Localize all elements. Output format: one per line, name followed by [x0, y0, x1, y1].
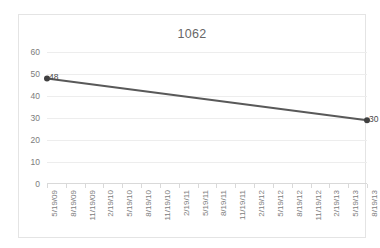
plot-area: 0102030405060 5/19/098/19/0911/19/092/19…: [47, 52, 367, 184]
x-axis-tick-label: 11/19/09: [88, 190, 97, 221]
y-axis-tick-label: 10: [31, 157, 40, 167]
y-axis-tick-label: 60: [31, 47, 40, 57]
data-point-label: 48: [49, 72, 58, 82]
x-axis-tick-label: 5/19/09: [50, 190, 59, 217]
x-axis-tick-mark: [103, 184, 104, 188]
y-axis-tick-label: 40: [31, 91, 40, 101]
x-axis-tick-label: 5/19/12: [276, 190, 285, 217]
x-axis-tick-label: 8/19/11: [219, 190, 228, 216]
x-axis-tick-label: 11/19/12: [314, 190, 323, 221]
x-axis-tick-label: 2/19/11: [182, 190, 191, 216]
x-axis-tick-label: 8/19/13: [370, 190, 379, 217]
x-axis-tick-label: 2/19/12: [257, 190, 266, 217]
x-axis-tick-mark: [329, 184, 330, 188]
x-axis-tick-label: 8/19/12: [295, 190, 304, 217]
chart-title: 1062: [19, 27, 365, 41]
x-axis-tick-label: 5/19/11: [201, 190, 210, 216]
y-axis-tick-label: 50: [31, 69, 40, 79]
chart-frame: 1062 0102030405060 5/19/098/19/0911/19/0…: [18, 14, 366, 238]
x-axis-tick-mark: [66, 184, 67, 188]
x-axis-tick-mark: [160, 184, 161, 188]
x-axis-tick-mark: [85, 184, 86, 188]
series-line: [47, 78, 367, 120]
x-axis-tick-mark: [348, 184, 349, 188]
data-point-label: 30: [369, 114, 378, 124]
x-axis-tick-label: 11/19/10: [163, 190, 172, 221]
series-line-group: [47, 52, 367, 184]
y-axis-tick-label: 0: [35, 179, 40, 189]
x-axis-tick-mark: [292, 184, 293, 188]
x-axis-tick-mark: [179, 184, 180, 188]
y-axis-tick-label: 20: [31, 135, 40, 145]
y-axis-tick-label: 30: [31, 113, 40, 123]
x-axis-tick-label: 8/19/09: [69, 190, 78, 217]
x-axis-tick-mark: [141, 184, 142, 188]
x-axis-tick-label: 2/19/13: [332, 190, 341, 217]
x-axis-tick-mark: [311, 184, 312, 188]
x-axis-tick-mark: [47, 184, 48, 188]
x-axis-tick-label: 5/19/13: [351, 190, 360, 217]
x-axis-tick-label: 8/19/10: [144, 190, 153, 217]
x-axis-tick-label: 11/19/11: [238, 190, 247, 220]
x-axis-tick-label: 2/19/10: [106, 190, 115, 217]
x-axis-tick-mark: [216, 184, 217, 188]
x-axis-tick-mark: [367, 184, 368, 188]
x-axis-tick-mark: [273, 184, 274, 188]
x-axis-tick-label: 5/19/10: [125, 190, 134, 217]
x-axis-tick-mark: [235, 184, 236, 188]
x-axis-tick-mark: [198, 184, 199, 188]
x-axis-tick-mark: [254, 184, 255, 188]
x-axis-tick-mark: [122, 184, 123, 188]
